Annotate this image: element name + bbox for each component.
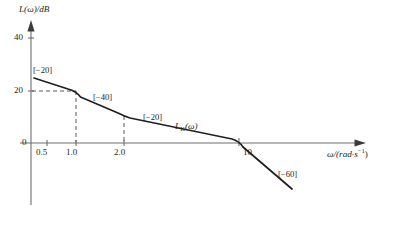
slope-label-segment-2: [−40]	[93, 93, 112, 102]
x-axis-title: ω/(rad·s−1)	[327, 150, 368, 159]
x-axis-title-exponent: −1	[358, 147, 365, 154]
y-tick-label-40: 40	[14, 33, 23, 42]
magnitude-curve-lk	[34, 78, 292, 189]
plot-canvas	[0, 0, 393, 227]
x-tick-label-2-0: 2.0	[114, 148, 125, 157]
curve-name-tail: (ω)	[185, 121, 198, 131]
slope-label-segment-4: [−60]	[278, 170, 297, 179]
y-axis-arrow-icon	[27, 20, 34, 32]
bode-magnitude-figure: L(ω)/dB ω/(rad·s−1) 40 20 0 0.5 1.0 2.0 …	[0, 0, 393, 227]
curve-name-subscript: K	[180, 125, 185, 132]
slope-label-segment-1: [−20]	[33, 66, 52, 75]
x-tick-label-10: 10	[243, 148, 252, 157]
x-tick-label-1-0: 1.0	[66, 148, 77, 157]
y-axis-title-text: L(ω)/dB	[19, 4, 49, 14]
y-axis-title: L(ω)/dB	[19, 5, 49, 14]
x-axis-title-tail: )	[365, 149, 368, 159]
slope-label-segment-3: [−20]	[143, 113, 162, 122]
x-tick-label-0-5: 0.5	[36, 148, 47, 157]
x-axis-title-main: ω/(rad·s	[327, 149, 358, 159]
y-tick-label-20: 20	[14, 86, 23, 95]
x-axis-arrow-icon	[355, 139, 367, 146]
curve-name-label: LK(ω)	[175, 122, 198, 131]
y-tick-label-0: 0	[22, 138, 27, 147]
